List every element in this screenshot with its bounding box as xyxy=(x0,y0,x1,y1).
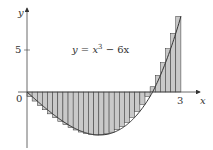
riemann-rectangle xyxy=(145,92,150,96)
riemann-rectangle xyxy=(114,92,119,130)
riemann-rectangle xyxy=(73,92,78,130)
riemann-rectangle xyxy=(58,92,63,121)
function-label: y = x3 − 6x xyxy=(72,44,129,55)
riemann-rectangle xyxy=(94,92,99,135)
riemann-rectangle xyxy=(124,92,129,122)
riemann-rectangle xyxy=(99,92,104,135)
x-axis-label: x xyxy=(200,96,206,106)
riemann-rectangle xyxy=(83,92,88,134)
riemann-rectangle xyxy=(109,92,114,132)
riemann-rectangle xyxy=(135,92,140,111)
riemann-rectangle xyxy=(176,16,181,92)
riemann-rectangle xyxy=(63,92,68,125)
x-tick-label-3: 3 xyxy=(177,96,183,106)
riemann-rectangle xyxy=(104,92,109,134)
y-axis-label: y xyxy=(18,8,24,18)
riemann-rectangle xyxy=(78,92,83,132)
riemann-rectangle xyxy=(119,92,124,127)
riemann-sum-figure xyxy=(0,0,213,150)
y-tick-label-5: 5 xyxy=(15,45,21,55)
riemann-rectangle xyxy=(68,92,73,128)
riemann-rectangle xyxy=(160,63,165,92)
riemann-rectangle xyxy=(140,92,145,104)
riemann-rectangle xyxy=(89,92,94,135)
riemann-rectangle xyxy=(130,92,135,117)
riemann-rectangle xyxy=(32,92,37,101)
x-tick-label-0: 0 xyxy=(16,94,22,104)
riemann-rectangles xyxy=(27,16,181,135)
